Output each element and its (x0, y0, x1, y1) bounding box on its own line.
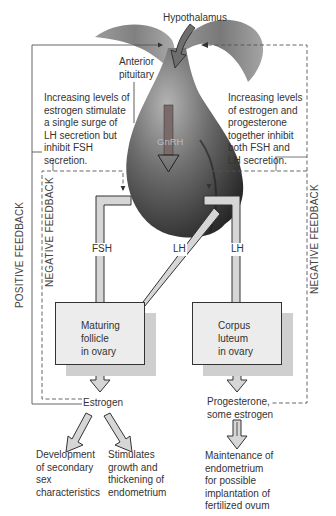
note-line: LH secretion. (228, 155, 302, 168)
corpus-line: Corpus (218, 319, 253, 332)
follicle-line: Maturing (81, 319, 120, 332)
follicle-line: follicle (81, 332, 120, 345)
fsh-label: FSH (91, 243, 113, 256)
hypothalamus-label: Hypothalamus (163, 12, 227, 25)
lh-left-label: LH (172, 243, 187, 256)
note-line: both FSH and (228, 142, 302, 155)
estrogen-label: Estrogen (82, 397, 124, 410)
corpus-line: luteum (218, 332, 253, 345)
endometrium-growth-label: Stimulates growth and thickening of endo… (108, 449, 166, 499)
anterior-pituitary-line-1: Anterior (119, 56, 154, 69)
note-line: Increasing levels (228, 92, 302, 105)
progesterone-label: Progesterone, some estrogen (207, 396, 273, 421)
note-line: progesterone (228, 117, 302, 130)
outcome-line: Development (36, 449, 100, 462)
outcome-line: characteristics (36, 487, 100, 500)
endometrium-maintenance-label: Maintenance of endometrium for possible … (205, 450, 273, 513)
positive-feedback-note: Increasing levels of estrogen stimulate … (44, 92, 130, 167)
outcome-line: endometrium (205, 463, 273, 476)
outcome-line: Maintenance of (205, 450, 273, 463)
outcome-line: of secondary (36, 462, 100, 475)
lh-right-label: LH (230, 243, 245, 256)
note-line: LH secretion but (44, 130, 130, 143)
progesterone-line: Progesterone, (207, 396, 273, 409)
note-line: Increasing levels of (44, 92, 130, 105)
negative-feedback-label-right: NEGATIVE FEEDBACK (309, 184, 320, 294)
outcome-line: for possible (205, 475, 273, 488)
corpus-line: in ovary (218, 345, 253, 358)
outcome-line: sex (36, 474, 100, 487)
outcome-line: implantation of (205, 488, 273, 501)
follicle-line: in ovary (81, 345, 120, 358)
negative-feedback-label-left: NEGATIVE FEEDBACK (44, 177, 55, 287)
outcome-line: growth and (108, 462, 166, 475)
outcome-line: endometrium (108, 487, 166, 500)
estrogen-to-endometrium-arrow (104, 413, 132, 452)
gnrh-label: GnRH (157, 136, 183, 149)
anterior-pituitary-label: Anterior pituitary (119, 56, 154, 81)
note-line: estrogen stimulate (44, 105, 130, 118)
estrogen-to-sex-characteristics-arrow (66, 413, 92, 452)
positive-feedback-label: POSITIVE FEEDBACK (14, 202, 25, 308)
note-line: of estrogen and (228, 105, 302, 118)
maturing-follicle-box: Maturing follicle in ovary (55, 302, 145, 365)
negative-feedback-note: Increasing levels of estrogen and proges… (228, 92, 302, 167)
note-line: a single surge of (44, 117, 130, 130)
anterior-pituitary-line-2: pituitary (119, 69, 154, 82)
outcome-line: thickening of (108, 474, 166, 487)
note-line: inhibit FSH (44, 142, 130, 155)
note-line: together inhibit (228, 130, 302, 143)
outcome-line: Stimulates (108, 449, 166, 462)
corpus-luteum-box: Corpus luteum in ovary (192, 302, 282, 365)
note-line: secretion. (44, 155, 130, 168)
progesterone-line: some estrogen (207, 409, 273, 422)
outcome-line: fertilized ovum (205, 500, 273, 513)
secondary-sex-characteristics-label: Development of secondary sex characteris… (36, 449, 100, 499)
